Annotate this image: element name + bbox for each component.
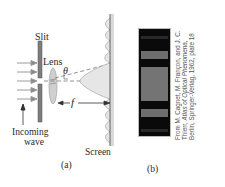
photo-credit: From M. Cagnet, M. Françon, and J. C. Th…	[174, 25, 196, 140]
focal-length-arrow	[58, 101, 110, 105]
lens-shape	[49, 68, 57, 104]
credit-title: Atlas of Optical Phenomena	[181, 42, 188, 120]
incoming-pointer-arrow	[21, 104, 25, 125]
focal-length-label: f	[71, 97, 74, 107]
screen-label: Screen	[85, 147, 111, 157]
theta-label: θ	[63, 66, 68, 76]
slit-lower-bar	[38, 84, 42, 122]
secondary-band-top	[141, 51, 168, 59]
incoming-label-line1: Incoming	[12, 127, 48, 137]
incoming-label-line2: wave	[24, 137, 44, 147]
secondary-band-bottom	[141, 109, 168, 117]
diffraction-photo	[138, 28, 171, 137]
caption-a: (a)	[61, 160, 72, 170]
faint-band-bottom	[141, 129, 168, 132]
slit-label: Slit	[35, 32, 49, 42]
central-band	[141, 67, 168, 101]
incoming-wave-arrows	[17, 61, 37, 102]
intensity-pattern	[80, 18, 110, 143]
slit-upper-bar	[38, 41, 42, 78]
screen-bar	[110, 14, 114, 146]
faint-band-top	[141, 36, 168, 39]
lens-label: Lens	[43, 57, 62, 67]
caption-b: (b)	[147, 164, 158, 174]
